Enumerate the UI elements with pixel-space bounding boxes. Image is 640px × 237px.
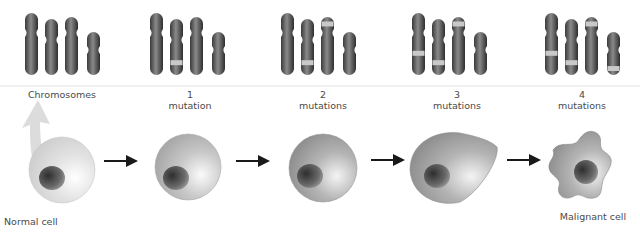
nucleus bbox=[39, 166, 65, 190]
chromosome bbox=[281, 13, 294, 75]
label-stage-2: 2 mutations bbox=[283, 89, 363, 111]
chromosome bbox=[412, 13, 425, 75]
chromosome bbox=[150, 13, 163, 75]
diagram-canvas bbox=[0, 0, 640, 237]
nucleus bbox=[424, 164, 450, 188]
chromosome-set-3 bbox=[412, 13, 487, 75]
chromosome-set-1 bbox=[150, 13, 225, 75]
mutation-count: 1 bbox=[150, 89, 230, 100]
chromosome-set-4 bbox=[545, 13, 620, 75]
cell-stage-3 bbox=[410, 132, 497, 203]
chromosome bbox=[432, 19, 445, 75]
cell-normal bbox=[29, 137, 95, 203]
chromosome bbox=[190, 17, 203, 75]
nucleus bbox=[163, 166, 189, 190]
nucleus bbox=[297, 164, 323, 188]
label-stage-4: 4 mutations bbox=[542, 89, 622, 111]
mutation-count: 2 bbox=[283, 89, 363, 100]
label-normal-cell: Normal cell bbox=[0, 216, 94, 227]
mutation-band bbox=[566, 60, 578, 65]
chromosome bbox=[545, 13, 558, 75]
mutation-band bbox=[302, 60, 314, 65]
separator bbox=[0, 85, 640, 87]
mutation-band bbox=[413, 51, 425, 56]
label-malignant-cell: Malignant cell bbox=[553, 211, 633, 222]
chromosome bbox=[25, 13, 38, 75]
chromosome-sets bbox=[25, 13, 620, 75]
mutation-band bbox=[433, 60, 445, 65]
chromosome bbox=[474, 32, 487, 75]
mutation-count: 3 bbox=[417, 89, 497, 100]
mutation-band bbox=[453, 21, 465, 26]
label-stage-1: 1 mutation bbox=[150, 89, 230, 111]
chromosome bbox=[343, 32, 356, 75]
mutation-band bbox=[171, 60, 183, 65]
label-stage-3: 3 mutations bbox=[417, 89, 497, 111]
cell-stage-1 bbox=[155, 134, 221, 200]
chromosome bbox=[87, 32, 100, 75]
nucleus bbox=[574, 160, 598, 184]
cell-stage-2 bbox=[289, 134, 357, 202]
chromosome bbox=[65, 17, 78, 75]
mutation-word: mutation bbox=[150, 100, 230, 111]
chromosome-set-2 bbox=[281, 13, 356, 75]
cell-malignant bbox=[549, 131, 611, 198]
mutation-band bbox=[546, 51, 558, 56]
label-chromosomes: Chromosomes bbox=[22, 89, 102, 100]
mutation-word: mutations bbox=[542, 100, 622, 111]
mutation-band bbox=[322, 21, 334, 26]
mutation-count: 4 bbox=[542, 89, 622, 100]
chromosome bbox=[170, 19, 183, 75]
chromosome bbox=[565, 19, 578, 75]
mutation-band bbox=[586, 21, 598, 26]
chromosome bbox=[301, 19, 314, 75]
mutation-band bbox=[608, 66, 620, 71]
chromosome bbox=[212, 32, 225, 75]
chromosome bbox=[45, 19, 58, 75]
mutation-word: mutations bbox=[417, 100, 497, 111]
chromosome-set-0 bbox=[25, 13, 100, 75]
mutation-word: mutations bbox=[283, 100, 363, 111]
